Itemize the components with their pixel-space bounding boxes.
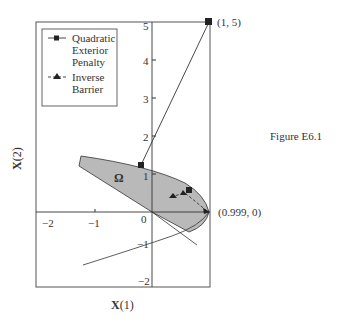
tick-label-y: −2: [138, 275, 150, 287]
y-axis-title: X(2): [10, 147, 24, 170]
tick-label-y: 5: [143, 20, 149, 32]
legend: Quadratic Exterior Penalty Inverse Barri…: [42, 29, 117, 106]
tick-label-x: −2: [42, 217, 54, 229]
tick-label-y: 2: [143, 131, 149, 143]
x-axis-title: X(1): [111, 298, 134, 312]
legend-label: Exterior: [72, 44, 108, 56]
legend-label: Inverse: [72, 71, 104, 83]
figure-caption: Figure E6.1: [270, 130, 322, 142]
annotation-point-right: (0.999, 0): [218, 206, 261, 219]
region-label: Ω: [114, 171, 124, 185]
annotation-point-top: (1, 5): [217, 16, 241, 29]
marker-square: [186, 187, 192, 193]
legend-label: Barrier: [72, 83, 103, 95]
tick-label-origin: 0: [141, 213, 147, 225]
tick-label-y: 3: [143, 93, 149, 105]
legend-label: Penalty: [72, 56, 105, 68]
chart-figure: −2 −1 0 −1 −2 1 2 3 4 5 Ω (1, 5) (0.999,…: [0, 0, 354, 321]
marker-square: [138, 162, 144, 168]
tick-label-x: −1: [88, 217, 100, 229]
series-quadratic-penalty: [141, 22, 209, 165]
legend-label: Quadratic: [72, 32, 115, 44]
marker-square: [205, 18, 212, 25]
legend-square-icon: [54, 36, 59, 41]
tick-label-y: −1: [137, 238, 149, 250]
tick-label-y: 4: [143, 55, 149, 67]
tick-label-y: 1: [143, 170, 149, 182]
